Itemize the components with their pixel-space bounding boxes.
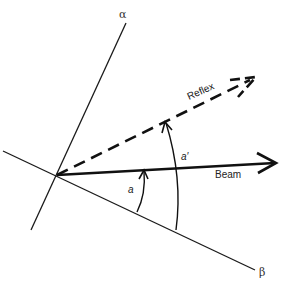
reflex-arrow	[57, 77, 256, 175]
angle-a-label: a	[128, 184, 134, 195]
angle-a-arc	[137, 170, 148, 212]
diagram-svg: α β Reflex Beam a a′	[0, 0, 284, 284]
angle-a-prime-label: a′	[181, 151, 190, 162]
alpha-label: α	[119, 8, 127, 21]
beam-label: Beam	[215, 169, 241, 180]
beam-reflex-diagram: α β Reflex Beam a a′	[0, 0, 284, 284]
beam-arrow	[57, 153, 276, 175]
angle-a-prime-arc	[162, 122, 178, 230]
beta-label: β	[259, 266, 265, 279]
alpha-axis	[31, 23, 126, 230]
